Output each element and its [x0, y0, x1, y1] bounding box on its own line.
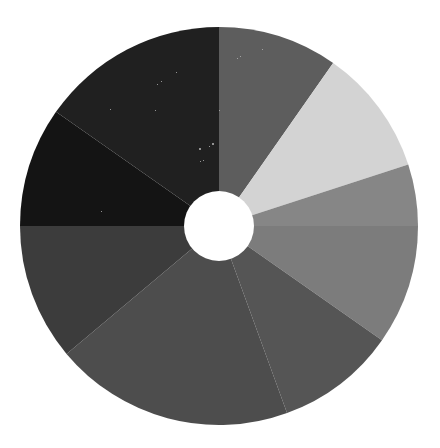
donut-hole — [184, 191, 254, 261]
donut-chart-svg — [0, 0, 440, 448]
chart-canvas — [0, 0, 440, 448]
